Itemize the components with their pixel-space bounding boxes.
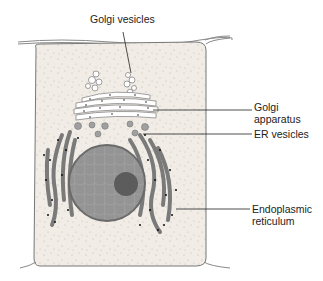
- cell-diagram: [0, 0, 323, 281]
- label-golgi-apparatus: Golgi apparatus: [254, 101, 301, 125]
- label-er-vesicles: ER vesicles: [254, 128, 309, 140]
- nucleolus: [114, 172, 138, 196]
- golgi-apparatus: [74, 92, 158, 120]
- label-er-line1: Endoplasmic: [252, 203, 312, 215]
- label-er-line2: reticulum: [252, 215, 312, 227]
- label-endoplasmic-reticulum: Endoplasmic reticulum: [252, 203, 312, 227]
- label-golgi-apparatus-line1: Golgi: [254, 101, 301, 113]
- label-golgi-vesicles: Golgi vesicles: [90, 13, 155, 25]
- label-golgi-apparatus-line2: apparatus: [254, 113, 301, 125]
